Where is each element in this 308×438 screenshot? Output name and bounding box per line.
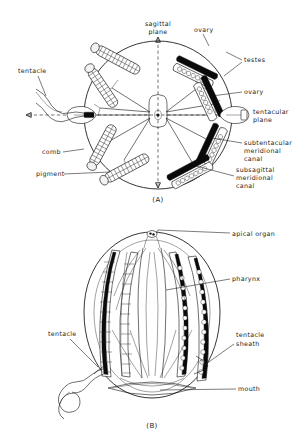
- label-subtentacular-canal-line1: subtentacular: [244, 139, 292, 146]
- label-comb: comb: [42, 148, 61, 155]
- label-tentacle-sheath-line1: tentacle: [236, 331, 265, 338]
- label-tentacular-plane-line2: plane: [253, 116, 272, 124]
- apical-organ: [144, 231, 160, 248]
- panel-a-caption: (A): [152, 196, 163, 204]
- comb-row-b-1: [100, 250, 120, 377]
- label-subtentacular-canal-line2: meridional: [244, 147, 281, 154]
- label-apical-organ: apical organ: [232, 230, 275, 238]
- pharynx: [138, 248, 166, 378]
- tentacle-a: [36, 89, 84, 122]
- tentacle-b: [58, 368, 106, 419]
- tentacle-bulb-left: [67, 106, 96, 123]
- tentacle-bulb-right: [220, 106, 249, 123]
- panel-a: sagittal plane ovary testes ovary tentac…: [18, 20, 292, 204]
- label-sagittal-plane-line1: sagittal: [145, 20, 171, 28]
- label-subsagittal-canal-line1: subsagittal: [236, 166, 275, 174]
- label-ovary-top: ovary: [194, 26, 214, 34]
- mouth: [108, 382, 196, 395]
- label-tentacle-a: tentacle: [18, 67, 47, 74]
- label-tentacle-b: tentacle: [48, 330, 77, 337]
- comb-rows-left: [67, 42, 151, 187]
- label-pharynx: pharynx: [232, 275, 260, 283]
- label-subsagittal-canal-line3: canal: [236, 182, 255, 189]
- label-tentacular-plane-line1: tentacular: [253, 108, 289, 115]
- label-ovary-right: ovary: [244, 88, 264, 96]
- labels-panel-b: apical organ pharynx tentacle sheath ten…: [48, 230, 275, 430]
- label-pigment: pigment: [36, 170, 65, 178]
- ctenophore-figure: sagittal plane ovary testes ovary tentac…: [0, 0, 308, 438]
- label-tentacle-sheath-line2: sheath: [236, 340, 260, 347]
- panel-b: apical organ pharynx tentacle sheath ten…: [48, 230, 275, 430]
- panel-b-caption: (B): [146, 422, 157, 430]
- tentacle-sheath: [94, 356, 208, 374]
- label-mouth: mouth: [238, 385, 260, 392]
- label-subsagittal-canal-line2: meridional: [236, 174, 273, 181]
- label-subtentacular-canal-line3: canal: [244, 155, 263, 162]
- label-testes: testes: [244, 56, 265, 63]
- sagittal-plane-axis: [156, 37, 161, 188]
- label-sagittal-plane-line2: plane: [148, 28, 167, 36]
